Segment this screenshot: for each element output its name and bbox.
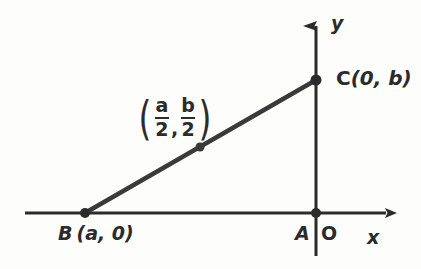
midpoint-x-denominator: 2 [155, 120, 168, 140]
point-b-dot [80, 208, 90, 218]
point-a-label: A [295, 224, 310, 243]
y-axis-label: y [331, 14, 343, 33]
point-b-label: B(a, 0) [58, 224, 134, 243]
coordinate-geometry-figure: y x C(0, b) B(a, 0) A O ( a 2 , b 2 ) [0, 0, 421, 269]
midpoint-y-numerator: b [181, 96, 195, 116]
point-c-name: C [336, 66, 351, 90]
point-c-label: C(0, b) [336, 68, 412, 88]
midpoint-label: ( a 2 , b 2 ) [136, 96, 214, 140]
midpoint-y-fraction: b 2 [180, 96, 196, 140]
point-c-dot [311, 75, 322, 86]
midpoint-y-denominator: 2 [182, 120, 195, 140]
point-b-name: B [58, 222, 72, 244]
point-b-coords: (a, 0) [72, 222, 133, 244]
midpoint-open-paren: ( [139, 98, 152, 138]
midpoint-x-numerator: a [156, 96, 169, 116]
midpoint-close-paren: ) [199, 98, 212, 138]
origin-label: O [321, 224, 337, 243]
x-axis-label: x [367, 228, 379, 247]
midpoint-comma: , [170, 119, 180, 140]
point-c-coords: (0, b) [351, 66, 412, 90]
midpoint-x-fraction: a 2 [154, 96, 170, 140]
origin-dot [311, 208, 321, 218]
